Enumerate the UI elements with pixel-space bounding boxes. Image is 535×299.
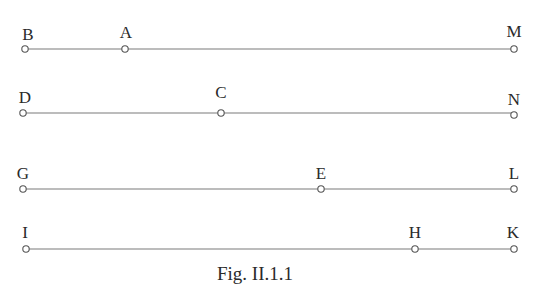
- point-L: [511, 186, 517, 192]
- label-G: G: [17, 164, 29, 183]
- point-K: [511, 246, 517, 252]
- point-E: [318, 186, 324, 192]
- label-B: B: [22, 25, 33, 44]
- point-C: [218, 110, 224, 116]
- point-B: [22, 46, 28, 52]
- label-K: K: [507, 223, 520, 242]
- segment-BM: B A M: [22, 22, 522, 52]
- label-M: M: [506, 22, 521, 41]
- label-N: N: [508, 90, 520, 109]
- segment-GL: G E L: [17, 164, 519, 192]
- point-G: [20, 186, 26, 192]
- point-H: [412, 246, 418, 252]
- label-D: D: [19, 88, 31, 107]
- segment-IK: I H K: [22, 223, 520, 252]
- point-I: [23, 246, 29, 252]
- label-E: E: [316, 164, 326, 183]
- geometry-figure: B A M D C N G E L I H K Fig. II.1.1: [0, 0, 535, 299]
- label-L: L: [509, 164, 519, 183]
- point-D: [20, 110, 26, 116]
- point-N: [511, 112, 517, 118]
- label-A: A: [120, 23, 133, 42]
- segment-DN: D C N: [19, 83, 520, 118]
- label-H: H: [409, 223, 421, 242]
- label-I: I: [22, 223, 28, 242]
- point-M: [511, 46, 517, 52]
- figure-caption: Fig. II.1.1: [217, 263, 293, 284]
- label-C: C: [215, 83, 226, 102]
- point-A: [122, 46, 128, 52]
